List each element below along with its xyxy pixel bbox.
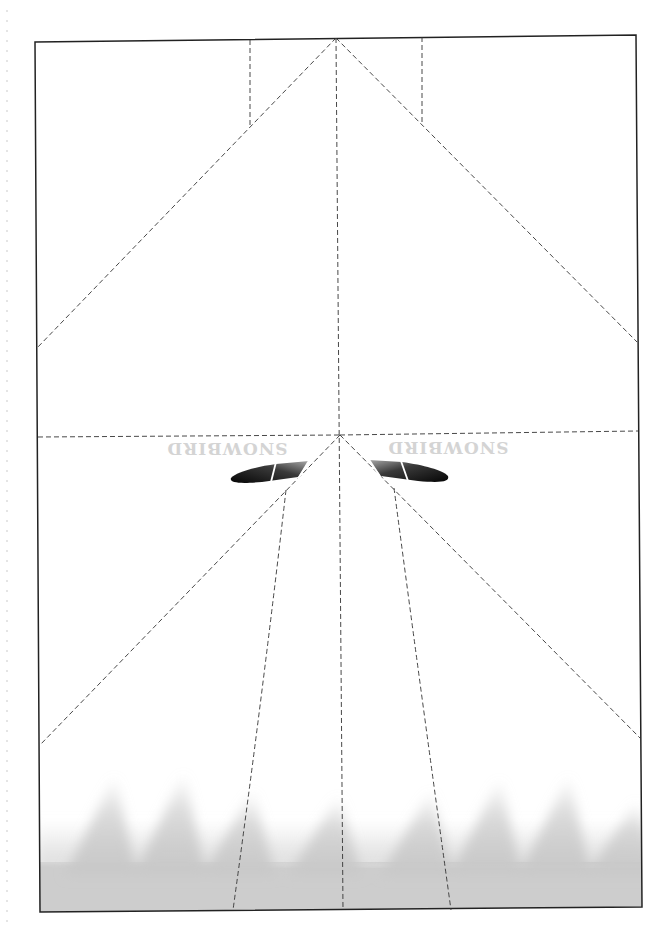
template-sheet: SNOWBIRD SNOWBIRD [0,0,659,944]
canopy-left [231,459,310,483]
canopy-right [368,458,448,482]
fold-lower-left-diagonal [40,435,340,745]
brand-text-group: SNOWBIRD SNOWBIRD [167,438,509,459]
fold-horizontal-left [38,435,340,437]
fold-lines [37,37,640,910]
fold-center-vertical [336,38,343,910]
brand-text-right: SNOWBIRD [388,438,509,458]
fold-horizontal-right [340,431,638,435]
fold-lower-right-diagonal [340,435,640,738]
canopy-left-shape [231,461,309,483]
canopy-right-shape [369,460,448,482]
brand-text-left: SNOWBIRD [167,439,288,459]
paper-border [35,35,642,912]
fold-top-left-diagonal [37,38,336,348]
exhaust-pattern [35,772,659,915]
fold-top-right-diagonal [336,38,637,342]
